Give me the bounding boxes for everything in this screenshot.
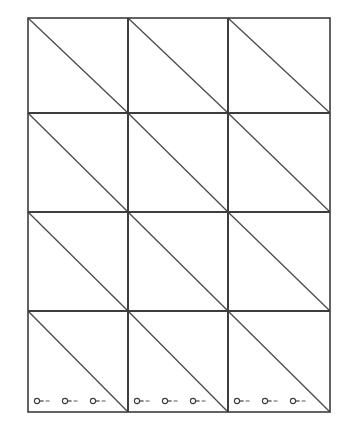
grid-diagram <box>0 0 344 424</box>
figure-canvas <box>0 0 344 424</box>
